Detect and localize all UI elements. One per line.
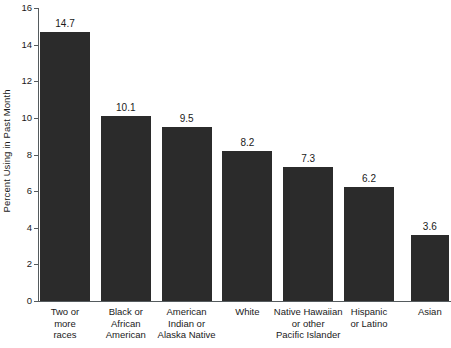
bar-value-label: 3.6 [423,221,437,232]
bar-chart: Percent Using in Past Month 161412108642… [0,0,451,348]
bar[interactable]: 3.6 [411,235,449,301]
x-axis-line [38,301,451,302]
bar-value-label: 14.7 [55,18,74,29]
y-tick-mark [34,228,38,229]
y-tick-mark [34,118,38,119]
y-tick-label: 4 [27,223,32,233]
y-tick-label: 8 [27,150,32,160]
bar[interactable]: 6.2 [344,187,394,301]
bar-value-label: 10.1 [116,102,135,113]
y-tick-label: 0 [27,296,32,306]
y-axis-title: Percent Using in Past Month [0,0,13,302]
bar[interactable]: 9.5 [162,127,212,301]
y-tick-mark [34,155,38,156]
bar-value-label: 7.3 [301,153,315,164]
bar[interactable]: 8.2 [222,151,272,301]
plot-area: 1614121086420 14.710.19.58.27.36.23.6 [38,8,451,302]
y-tick-label: 12 [21,76,32,86]
y-tick-label: 10 [21,113,32,123]
y-tick-label: 2 [27,259,32,269]
y-tick-label: 6 [27,186,32,196]
bar[interactable]: 7.3 [283,167,333,301]
bar-value-label: 8.2 [240,137,254,148]
y-tick-mark [34,301,38,302]
y-tick-mark [34,81,38,82]
y-tick-mark [34,264,38,265]
y-tick-mark [34,191,38,192]
y-tick-label: 14 [21,40,32,50]
y-tick-mark [34,45,38,46]
bar-value-label: 6.2 [362,173,376,184]
y-axis-line [38,8,39,302]
y-tick-mark [34,8,38,9]
bar[interactable]: 14.7 [40,32,90,301]
x-category-label: Asian [387,306,451,318]
bar-value-label: 9.5 [180,113,194,124]
y-tick-label: 16 [21,3,32,13]
bar[interactable]: 10.1 [101,116,151,301]
